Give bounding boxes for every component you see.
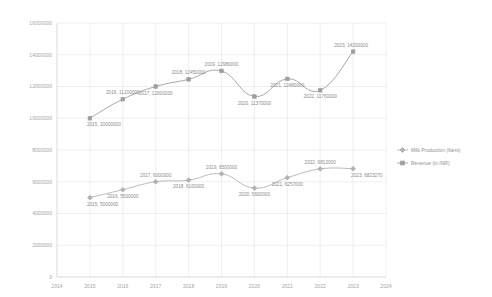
y-axis-tick-label: 16000000 xyxy=(29,20,52,26)
data-point-label: 2023, 6823270 xyxy=(351,173,383,178)
x-axis-tick-label: 2017 xyxy=(150,283,161,289)
data-point-marker xyxy=(154,85,158,89)
data-point-marker xyxy=(286,77,290,81)
y-axis-tick-label: 6000000 xyxy=(32,179,52,185)
data-point-marker xyxy=(121,187,126,192)
data-point-label: 2018, 6100000 xyxy=(173,184,205,189)
data-point-label: 2015, 10000000 xyxy=(87,122,121,127)
data-point-marker xyxy=(220,69,224,73)
data-point-label: 2020, 5600000 xyxy=(239,192,271,197)
data-point-label: 2016, 11200000 xyxy=(106,90,140,95)
y-axis-tick-labels: 0200000040000006000000800000010000000120… xyxy=(29,20,52,280)
data-point-label: 2022, 11760000 xyxy=(303,94,337,99)
x-axis-tick-label: 2019 xyxy=(216,283,227,289)
x-axis-tick-label: 2021 xyxy=(282,283,293,289)
data-point-marker xyxy=(219,172,224,177)
data-point-label: 2020, 11370000 xyxy=(238,101,272,106)
data-point-marker xyxy=(121,97,125,101)
legend-item-label: Revenue (in INR) xyxy=(411,160,450,166)
data-point-marker xyxy=(153,179,158,184)
data-point-label: 2021, 6257000 xyxy=(272,182,304,187)
legend-marker-square xyxy=(401,161,405,165)
legend: Milk Production (liters)Revenue (in INR) xyxy=(397,147,461,166)
y-axis-tick-label: 14000000 xyxy=(29,52,52,58)
data-point-label: 2019, 6500000 xyxy=(206,165,238,170)
data-point-marker xyxy=(88,116,92,120)
data-point-label: 2018, 12450000 xyxy=(172,70,206,75)
x-axis-tick-labels: 2014201520162017201820192020202120222023… xyxy=(51,283,391,289)
data-point-marker xyxy=(318,89,322,93)
x-axis-tick-label: 2016 xyxy=(117,283,128,289)
data-point-marker xyxy=(187,78,191,82)
data-point-label: 2022, 6812000 xyxy=(305,160,337,165)
data-point-marker xyxy=(285,175,290,180)
chart-canvas: 0200000040000006000000800000010000000120… xyxy=(0,0,492,297)
x-axis-tick-label: 2015 xyxy=(84,283,95,289)
data-point-label: 2015, 5000000 xyxy=(87,202,119,207)
data-point-label: 2019, 12980000 xyxy=(205,62,239,67)
data-point-label: 2021, 12480000 xyxy=(270,83,304,88)
y-axis-tick-label: 0 xyxy=(49,274,52,280)
data-point-label: 2017, 12000000 xyxy=(139,91,173,96)
data-point-marker xyxy=(351,50,355,54)
legend-item-label: Milk Production (liters) xyxy=(411,147,461,153)
y-axis-tick-label: 10000000 xyxy=(29,115,52,121)
x-axis-tick-label: 2022 xyxy=(315,283,326,289)
line-chart: 0200000040000006000000800000010000000120… xyxy=(0,0,492,297)
legend-marker-diamond xyxy=(400,148,405,153)
y-axis-tick-label: 2000000 xyxy=(32,242,52,248)
x-axis-tick-label: 2018 xyxy=(183,283,194,289)
y-axis-tick-label: 4000000 xyxy=(32,210,52,216)
x-axis-tick-label: 2020 xyxy=(249,283,260,289)
data-point-label: 2017, 6000000 xyxy=(140,173,172,178)
x-axis-tick-label: 2023 xyxy=(347,283,358,289)
data-point-label: 2023, 14200000 xyxy=(334,43,368,48)
data-point-label: 2016, 5500000 xyxy=(107,194,139,199)
data-point-marker xyxy=(252,186,257,191)
data-point-marker xyxy=(351,166,356,171)
x-axis-tick-label: 2014 xyxy=(51,283,62,289)
x-axis-tick-label: 2024 xyxy=(380,283,391,289)
data-point-marker xyxy=(88,195,93,200)
data-point-marker xyxy=(318,167,323,172)
data-point-marker xyxy=(253,95,257,99)
y-axis-tick-label: 8000000 xyxy=(32,147,52,153)
y-axis-tick-label: 12000000 xyxy=(29,83,52,89)
